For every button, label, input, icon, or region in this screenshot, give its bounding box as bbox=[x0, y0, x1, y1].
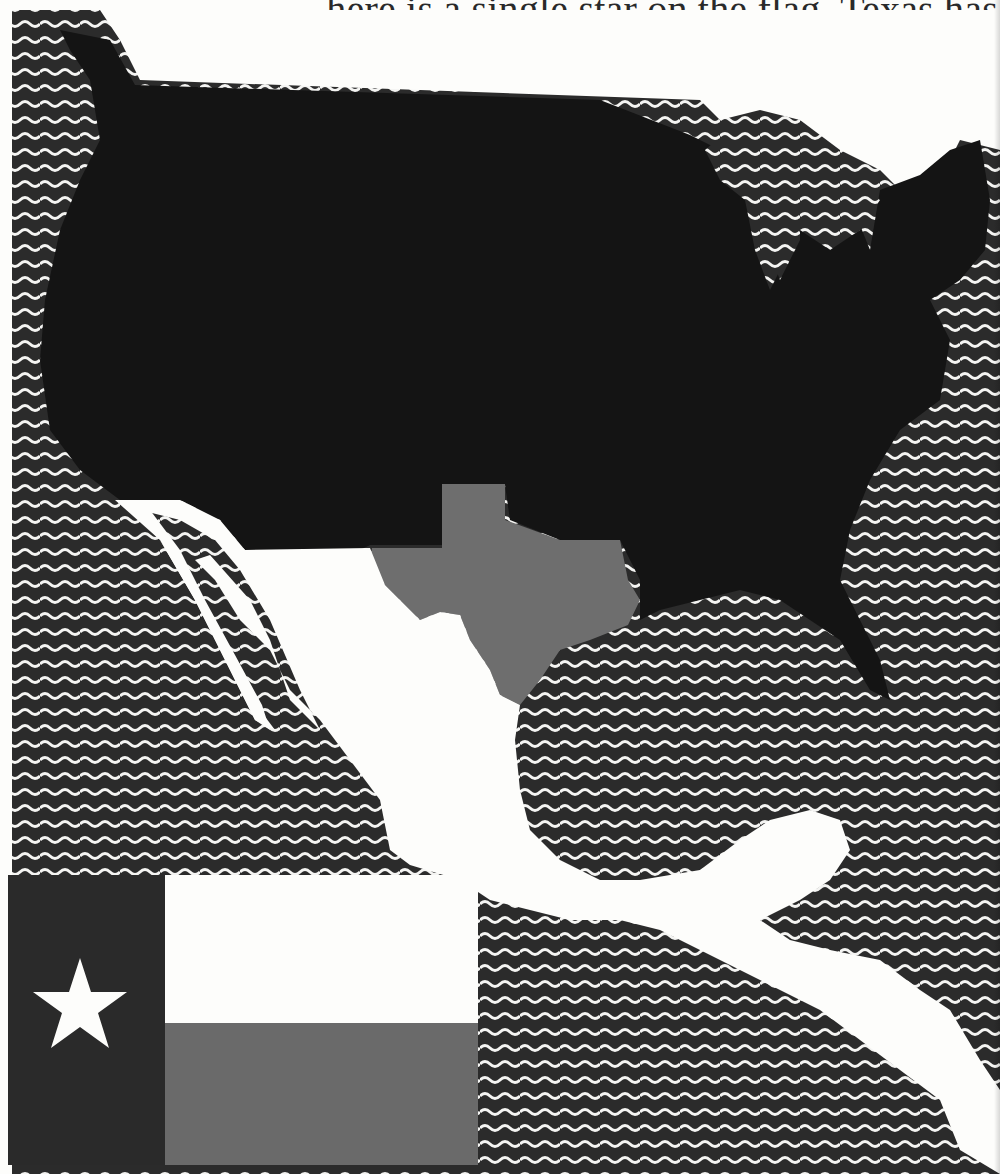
texas-flag bbox=[8, 875, 478, 1165]
flag-white-stripe bbox=[165, 875, 478, 1023]
flag-red-stripe bbox=[165, 1023, 478, 1165]
star-icon bbox=[30, 955, 130, 1055]
page-edge-shadow bbox=[994, 0, 1000, 1174]
